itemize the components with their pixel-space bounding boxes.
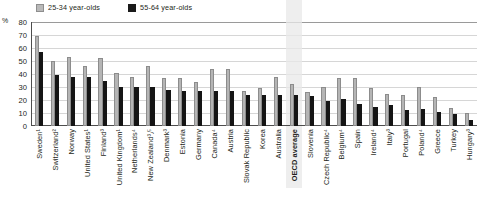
bar-old[interactable] (278, 95, 282, 126)
bar-group[interactable] (445, 22, 461, 126)
y-axis-unit-label: % (2, 17, 8, 24)
bar-old[interactable] (103, 81, 107, 127)
bar-group[interactable] (286, 22, 302, 126)
bar-old[interactable] (246, 95, 250, 126)
x-label-canada: Canada⁴ (206, 128, 222, 212)
legend-label-young: 25-34 year-olds (48, 3, 100, 12)
x-label-australia: Australia (270, 128, 286, 212)
bar-group[interactable] (95, 22, 111, 126)
x-label-slovenia: Slovenia (302, 128, 318, 212)
bar-old[interactable] (150, 87, 154, 126)
x-label-newzealand: New Zealand³٫⁵ (142, 128, 158, 212)
bar-group[interactable] (270, 22, 286, 126)
bar-group[interactable] (238, 22, 254, 126)
bar-group[interactable] (429, 22, 445, 126)
bar-old[interactable] (230, 91, 234, 126)
x-label-finland: Finland³ (95, 128, 111, 212)
x-label-italy: Italy³ (381, 128, 397, 212)
x-label-germany: Germany (190, 128, 206, 212)
x-label-denmark: Denmark³ (158, 128, 174, 212)
bar-group[interactable] (334, 22, 350, 126)
bar-old[interactable] (357, 104, 361, 126)
bar-group[interactable] (365, 22, 381, 126)
x-label-turkey: Turkey (445, 128, 461, 212)
x-label-belgium: Belgium⁴ (334, 128, 350, 212)
bar-old[interactable] (389, 105, 393, 126)
x-label-czechrepublic: Czech Republic⁴ (318, 128, 334, 212)
bar-old[interactable] (326, 101, 330, 126)
x-label-unitedstates: United States¹ (79, 128, 95, 212)
bar-group[interactable] (461, 22, 477, 126)
bar-old[interactable] (437, 112, 441, 126)
bar-old[interactable] (421, 109, 425, 126)
bar-chart: 25-34 year-olds 55-64 year-olds % 807060… (0, 0, 480, 213)
legend-label-old: 55-64 year-olds (140, 3, 192, 12)
x-label-oecdaverage: OECD average (286, 128, 302, 212)
bar-group[interactable] (127, 22, 143, 126)
x-label-sweden: Sweden¹ (31, 128, 47, 212)
bar-old[interactable] (373, 107, 377, 127)
x-label-spain: Spain (349, 128, 365, 212)
bar-group[interactable] (47, 22, 63, 126)
y-axis-tick-0: 0 (11, 122, 27, 131)
bar-group[interactable] (158, 22, 174, 126)
y-axis-tick-60: 60 (11, 44, 27, 53)
x-label-poland: Poland⁴ (413, 128, 429, 212)
bar-old[interactable] (119, 87, 123, 126)
bar-old[interactable] (453, 114, 457, 126)
x-label-norway: Norway (63, 128, 79, 212)
bar-groups (31, 22, 477, 126)
x-label-korea: Korea (254, 128, 270, 212)
legend-item-old: 55-64 year-olds (128, 3, 192, 12)
bar-old[interactable] (214, 91, 218, 126)
bar-old[interactable] (294, 95, 298, 126)
bar-old[interactable] (39, 52, 43, 126)
bar-old[interactable] (341, 99, 345, 126)
bar-old[interactable] (469, 120, 473, 127)
legend-swatch-old-icon (128, 4, 136, 12)
bar-group[interactable] (397, 22, 413, 126)
bar-group[interactable] (206, 22, 222, 126)
y-axis-tick-50: 50 (11, 57, 27, 66)
bar-old[interactable] (55, 75, 59, 126)
x-label-austria: Austria (222, 128, 238, 212)
bar-group[interactable] (63, 22, 79, 126)
bar-group[interactable] (79, 22, 95, 126)
bar-group[interactable] (318, 22, 334, 126)
y-axis-tick-80: 80 (11, 18, 27, 27)
bar-old[interactable] (405, 110, 409, 126)
y-axis-tick-30: 30 (11, 83, 27, 92)
bar-group[interactable] (111, 22, 127, 126)
bar-group[interactable] (413, 22, 429, 126)
bar-old[interactable] (198, 91, 202, 126)
bar-group[interactable] (381, 22, 397, 126)
bar-old[interactable] (166, 90, 170, 126)
x-label-unitedkingdom: United Kingdom¹ (111, 128, 127, 212)
y-axis-tick-10: 10 (11, 109, 27, 118)
bar-old[interactable] (310, 96, 314, 126)
x-label-switzerland: Switzerland² (47, 128, 63, 212)
bar-old[interactable] (134, 87, 138, 126)
x-axis-category-labels: Sweden¹Switzerland²NorwayUnited States¹F… (31, 128, 477, 212)
y-axis-tick-20: 20 (11, 96, 27, 105)
bar-group[interactable] (31, 22, 47, 126)
bar-group[interactable] (349, 22, 365, 126)
bar-group[interactable] (302, 22, 318, 126)
bar-group[interactable] (190, 22, 206, 126)
bar-group[interactable] (142, 22, 158, 126)
bar-old[interactable] (182, 91, 186, 126)
x-label-ireland: Ireland⁴ (365, 128, 381, 212)
bar-group[interactable] (254, 22, 270, 126)
y-axis-tick-labels: 80706050403020100 (9, 22, 27, 126)
bar-group[interactable] (222, 22, 238, 126)
x-label-slovakrepublic: Slovak Republic (238, 128, 254, 212)
bar-group[interactable] (174, 22, 190, 126)
x-label-hungary: Hungary³ (461, 128, 477, 212)
x-label-portugal: Portugal (397, 128, 413, 212)
bar-old[interactable] (71, 77, 75, 126)
bar-old[interactable] (262, 95, 266, 126)
legend-item-young: 25-34 year-olds (36, 3, 100, 12)
legend-swatch-young-icon (36, 4, 44, 12)
x-label-netherlands: Netherlands⁴ (127, 128, 143, 212)
bar-old[interactable] (87, 77, 91, 126)
